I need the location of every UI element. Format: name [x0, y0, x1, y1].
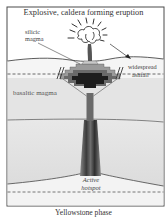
eruption-column [88, 44, 92, 61]
silicic-cap [82, 61, 98, 64]
basaltic-magma-label: basaltic magma [13, 90, 57, 97]
hotspot-label-line2: hotspot [74, 184, 108, 192]
silicic-magma-label: silicic magma [25, 28, 44, 42]
hotspot-label-line1: Active [74, 176, 108, 184]
active-hotspot-label: Active hotspot [74, 176, 108, 192]
diagram-title: Explosive, caldera forming eruption [0, 9, 167, 17]
ashfall-label-line2: ashfall [128, 71, 157, 79]
silicic-magma-label-line2: magma [25, 35, 44, 42]
silicic-magma-label-line1: silicic [25, 28, 44, 35]
figure-caption: Yellowstone phase [0, 209, 167, 217]
widespread-ashfall-label: widespread ashfall [128, 63, 157, 79]
yellowstone-phase-diagram: Explosive, caldera forming eruption sili… [0, 0, 167, 221]
magma-conduit [87, 93, 94, 121]
ashfall-label-line1: widespread [128, 63, 157, 71]
